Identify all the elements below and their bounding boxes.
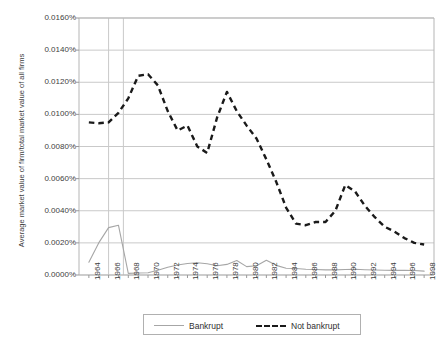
legend-item-not-bankrupt: Not bankrupt xyxy=(256,319,340,332)
x-axis-tick-label: 1970 xyxy=(152,262,161,280)
x-axis-tick-label: 1994 xyxy=(389,262,398,280)
x-axis-tick-label: 1984 xyxy=(290,262,299,280)
legend-swatch-solid-icon xyxy=(154,325,184,326)
x-axis-tick-label: 1998 xyxy=(428,262,437,280)
x-axis-tick-label: 1964 xyxy=(93,262,102,280)
x-axis-tick-label: 1976 xyxy=(211,262,220,280)
chart-container: Average market value of firm/total marke… xyxy=(0,0,446,349)
legend-item-bankrupt: Bankrupt xyxy=(154,319,223,332)
x-axis-tick-label: 1980 xyxy=(251,262,260,280)
x-axis-tick-label: 1972 xyxy=(172,262,181,280)
legend-swatch-dashed-icon xyxy=(256,325,286,327)
x-axis-tick-label: 1982 xyxy=(270,262,279,280)
chart-legend: BankruptNot bankrupt xyxy=(143,314,361,335)
x-axis-tick-label: 1992 xyxy=(369,262,378,280)
x-axis-tick-label: 1988 xyxy=(330,262,339,280)
x-axis-tick-label: 1996 xyxy=(408,262,417,280)
x-axis-tick-label: 1966 xyxy=(113,262,122,280)
x-axis-tick-label: 1978 xyxy=(231,262,240,280)
x-axis-tick-label: 1974 xyxy=(191,262,200,280)
x-axis-tick-label: 1990 xyxy=(349,262,358,280)
x-axis-tick-label: 1986 xyxy=(310,262,319,280)
legend-label: Bankrupt xyxy=(189,321,223,331)
x-axis-tick-labels: 1964196619681970197219741976197819801982… xyxy=(0,0,446,349)
x-axis-tick-label: 1968 xyxy=(132,262,141,280)
legend-label: Not bankrupt xyxy=(291,321,340,331)
